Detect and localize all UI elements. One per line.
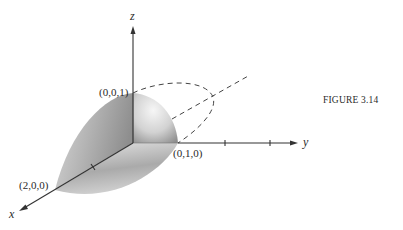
dashed-negative-x-axis <box>172 75 250 119</box>
x-axis-arrow-icon <box>19 205 28 212</box>
point-label-2-0-0: (2,0,0) <box>19 179 49 192</box>
z-axis-label: z <box>129 9 135 23</box>
solid-cap-face <box>133 93 178 143</box>
y-axis-label: y <box>302 135 309 149</box>
point-label-0-1-0: (0,1,0) <box>173 147 203 160</box>
x-axis-label: x <box>8 207 15 221</box>
point-label-0-0-1: (0,0,1) <box>99 86 129 99</box>
z-axis-arrow-icon <box>131 26 136 34</box>
figure-3-14: z y x (0,0,1) (0,1,0) (2,0,0) FIGURE 3.1… <box>0 0 403 230</box>
y-axis-arrow-icon <box>290 141 298 146</box>
figure-caption: FIGURE 3.14 <box>323 95 379 105</box>
